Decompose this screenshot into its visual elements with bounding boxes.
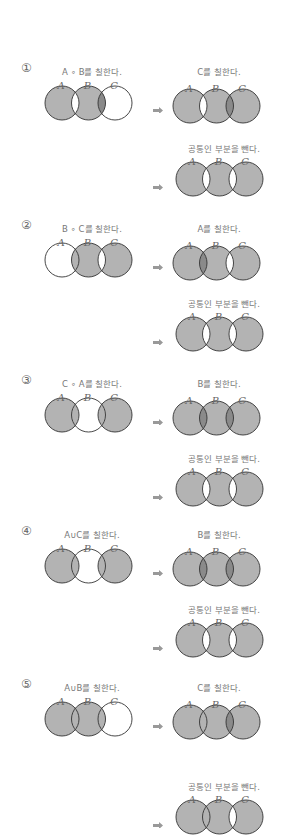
left-caption: A∪B를 칠한다.	[64, 681, 119, 693]
right-caption: A를 칠한다.	[197, 222, 240, 234]
set-label-b: B	[83, 80, 91, 91]
set-label-a: A	[56, 237, 64, 248]
set-label-a: A	[56, 543, 64, 554]
set-label-a: A	[56, 392, 64, 403]
set-label-b: B	[83, 696, 91, 707]
set-label-b: B	[214, 311, 222, 322]
right-caption: B를 칠한다.	[197, 528, 240, 540]
venn-result: ABC	[174, 464, 265, 512]
set-label-b: B	[211, 699, 219, 710]
set-label-c: C	[238, 395, 246, 406]
venn-left: ABC	[43, 235, 134, 283]
venn-right: ABC	[171, 81, 262, 129]
venn-right: ABC	[171, 393, 262, 441]
set-label-b: B	[214, 466, 222, 477]
right-arrow-icon	[153, 570, 163, 576]
venn-result: ABC	[174, 792, 265, 838]
right-arrow-icon	[153, 645, 163, 651]
result-caption: 공통인 부분을 뺀다.	[188, 297, 260, 309]
left-caption: A ∘ B를 칠한다.	[62, 65, 122, 77]
set-label-b: B	[211, 83, 219, 94]
venn-left: ABC	[43, 694, 134, 742]
right-arrow-icon	[153, 494, 163, 500]
set-label-c: C	[241, 311, 249, 322]
set-label-a: A	[184, 699, 192, 710]
set-label-c: C	[241, 617, 249, 628]
set-label-c: C	[110, 696, 118, 707]
venn-result: ABC	[174, 615, 265, 663]
right-arrow-icon	[153, 822, 163, 828]
set-label-a: A	[187, 794, 195, 805]
set-label-c: C	[238, 240, 246, 251]
set-label-b: B	[211, 240, 219, 251]
right-arrow-icon	[153, 264, 163, 270]
right-arrow-icon	[153, 107, 163, 113]
venn-left: ABC	[43, 390, 134, 438]
result-caption: 공통인 부분을 뺀다.	[188, 452, 260, 464]
venn-result: ABC	[174, 309, 265, 357]
set-label-b: B	[214, 156, 222, 167]
venn-right: ABC	[171, 697, 262, 745]
result-caption: 공통인 부분을 뺀다.	[188, 780, 260, 792]
right-arrow-icon	[153, 339, 163, 345]
venn-left: ABC	[43, 78, 134, 126]
set-label-c: C	[110, 543, 118, 554]
set-label-a: A	[187, 311, 195, 322]
option-number: ④	[21, 524, 32, 538]
set-label-b: B	[83, 237, 91, 248]
set-label-a: A	[56, 696, 64, 707]
left-caption: B ∘ C를 칠한다.	[62, 222, 122, 234]
result-caption: 공통인 부분을 뺀다.	[188, 142, 260, 154]
venn-left: ABC	[43, 541, 134, 589]
option-number: ①	[21, 61, 32, 75]
set-label-c: C	[238, 699, 246, 710]
option-number: ②	[21, 218, 32, 232]
venn-right: ABC	[171, 544, 262, 592]
set-label-b: B	[211, 395, 219, 406]
set-label-c: C	[238, 546, 246, 557]
right-caption: C를 칠한다.	[197, 65, 240, 77]
set-label-b: B	[214, 794, 222, 805]
set-label-c: C	[110, 80, 118, 91]
venn-right: ABC	[171, 238, 262, 286]
right-caption: C를 칠한다.	[197, 681, 240, 693]
set-label-b: B	[83, 392, 91, 403]
set-label-b: B	[211, 546, 219, 557]
set-label-a: A	[187, 617, 195, 628]
set-label-c: C	[110, 392, 118, 403]
set-label-a: A	[184, 240, 192, 251]
set-label-c: C	[241, 156, 249, 167]
set-label-b: B	[83, 543, 91, 554]
set-label-b: B	[214, 617, 222, 628]
set-label-a: A	[184, 395, 192, 406]
right-arrow-icon	[153, 419, 163, 425]
right-arrow-icon	[153, 723, 163, 729]
set-label-a: A	[184, 546, 192, 557]
set-label-a: A	[187, 156, 195, 167]
set-label-a: A	[184, 83, 192, 94]
set-label-c: C	[238, 83, 246, 94]
right-arrow-icon	[153, 184, 163, 190]
result-caption: 공통인 부분을 뺀다.	[188, 603, 260, 615]
left-caption: A∪C를 칠한다.	[64, 528, 119, 540]
left-caption: C ∘ A를 칠한다.	[62, 377, 122, 389]
venn-result: ABC	[174, 154, 265, 202]
right-caption: B를 칠한다.	[197, 377, 240, 389]
set-label-a: A	[187, 466, 195, 477]
set-label-a: A	[56, 80, 64, 91]
option-number: ③	[21, 373, 32, 387]
option-number: ⑤	[21, 677, 32, 691]
set-label-c: C	[241, 794, 249, 805]
set-label-c: C	[241, 466, 249, 477]
set-label-c: C	[110, 237, 118, 248]
